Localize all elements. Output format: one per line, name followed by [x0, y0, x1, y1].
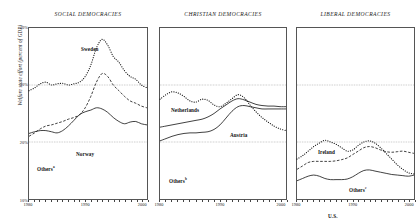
series-line	[29, 73, 147, 136]
series-label: Norway	[76, 151, 94, 157]
series-label-footnote-marker: a	[53, 165, 55, 169]
panel-social-democracies: SOCIAL DEMOCRACIES 198019902000 SwedenNo…	[28, 0, 148, 224]
series-label-footnote-marker: b	[185, 177, 187, 181]
series-label: Sweden	[81, 46, 99, 52]
x-axis-minor-ticks	[296, 200, 415, 203]
y-tick-label: 20%	[14, 140, 28, 145]
series-line	[297, 147, 414, 170]
series-line	[297, 170, 414, 181]
y-tick-label: 30%	[14, 82, 28, 87]
series-label: Netherlands	[171, 107, 199, 113]
panel-title: LIBERAL DEMOCRACIES	[296, 11, 415, 17]
y-tick-label: 40%	[14, 25, 28, 30]
series-label: Othersa	[37, 165, 55, 172]
figure: Welfare state effort (percent of GDP) 40…	[0, 0, 419, 224]
plot-area	[159, 27, 287, 200]
series-label: Ireland	[318, 149, 335, 155]
plot-area	[296, 27, 415, 200]
series-label-footnote-marker: c	[365, 186, 367, 190]
panel-liberal-democracies: LIBERAL DEMOCRACIES 198019902000 Ireland…	[296, 0, 415, 224]
x-axis-tick-labels: 198019902000	[28, 202, 148, 212]
plot-area	[28, 27, 148, 200]
series-line	[297, 140, 414, 174]
x-axis-minor-ticks	[159, 200, 287, 203]
series-label: Othersc	[349, 186, 366, 193]
panel-title: SOCIAL DEMOCRACIES	[28, 11, 148, 17]
x-axis-tick-labels: 198019902000	[296, 202, 415, 212]
series-line	[29, 108, 147, 134]
series-label: Austria	[230, 132, 247, 138]
panel-christian-democracies: CHRISTIAN DEMOCRACIES 198019902000 Nethe…	[159, 0, 287, 224]
y-axis-tick-labels: 40%30%20%10%	[14, 0, 28, 224]
x-axis-tick-labels: 198019902000	[159, 202, 287, 212]
x-axis-minor-ticks	[28, 200, 148, 203]
series-label: Othersb	[169, 177, 187, 184]
series-label: U.S.	[328, 213, 338, 219]
panel-title: CHRISTIAN DEMOCRACIES	[159, 11, 287, 17]
